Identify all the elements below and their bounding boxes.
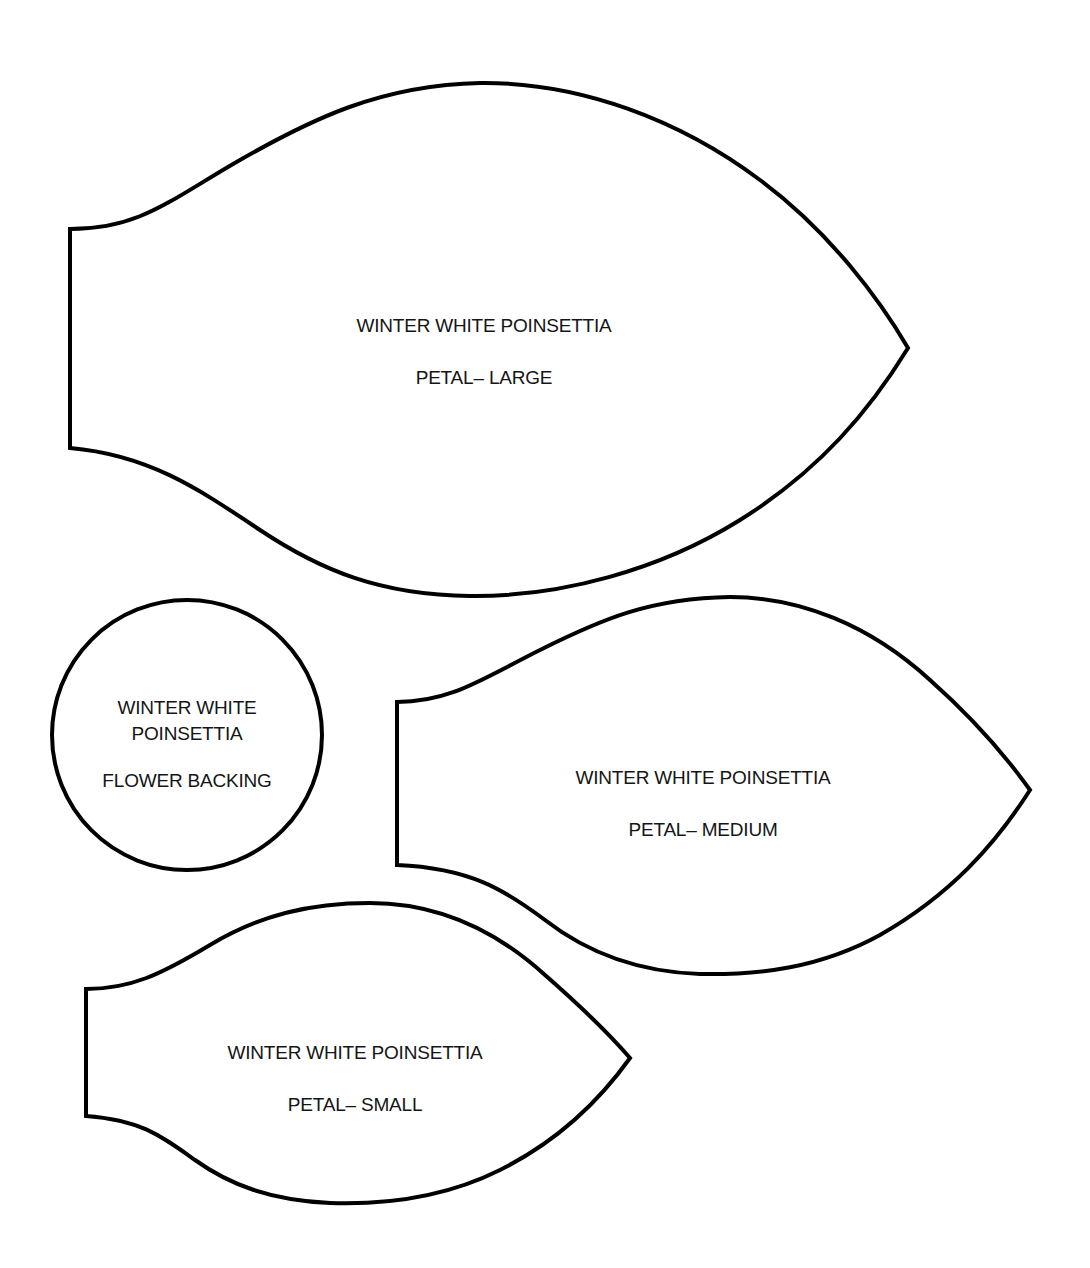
template-shapes — [0, 0, 1090, 1268]
petal-medium-size: PETAL– MEDIUM — [553, 820, 853, 839]
petal-small-label: WINTER WHITE POINSETTIA PETAL– SMALL — [205, 1043, 505, 1114]
petal-medium-label: WINTER WHITE POINSETTIA PETAL– MEDIUM — [553, 768, 853, 839]
petal-large-size: PETAL– LARGE — [334, 368, 634, 387]
flower-backing-label: WINTER WHITE POINSETTIA FLOWER BACKING — [87, 698, 287, 790]
flower-backing-title-1: WINTER WHITE — [87, 698, 287, 717]
flower-backing-title-2: POINSETTIA — [87, 724, 287, 743]
petal-medium-title: WINTER WHITE POINSETTIA — [553, 768, 853, 787]
petal-small-title: WINTER WHITE POINSETTIA — [205, 1043, 505, 1062]
petal-large-label: WINTER WHITE POINSETTIA PETAL– LARGE — [334, 316, 634, 387]
petal-small-size: PETAL– SMALL — [205, 1095, 505, 1114]
petal-large-title: WINTER WHITE POINSETTIA — [334, 316, 634, 335]
template-page: WINTER WHITE POINSETTIA PETAL– LARGE WIN… — [0, 0, 1090, 1268]
flower-backing-type: FLOWER BACKING — [87, 771, 287, 790]
